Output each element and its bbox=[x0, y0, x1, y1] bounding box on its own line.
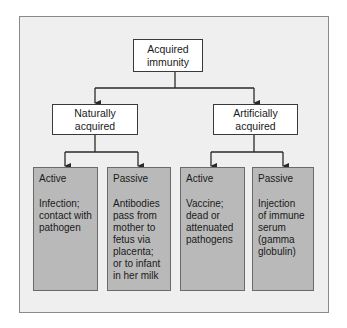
leaf-title: Passive bbox=[113, 173, 166, 185]
leaf-natural-active: Active Infection; contact with pathogen bbox=[33, 167, 98, 291]
root-node-label: Acquired immunity bbox=[147, 43, 189, 69]
leaf-description: Infection; contact with pathogen bbox=[39, 198, 93, 234]
leaf-title: Active bbox=[186, 173, 240, 185]
leaf-title: Passive bbox=[258, 173, 309, 185]
leaf-artificial-passive: Passive Injection of immune serum (gamma… bbox=[252, 167, 314, 291]
branch-node-label: Naturally acquired bbox=[74, 107, 115, 133]
branch-node-artificially-acquired: Artificially acquired bbox=[213, 104, 298, 135]
branch-node-label: Artificially acquired bbox=[233, 107, 277, 133]
root-node-acquired-immunity: Acquired immunity bbox=[133, 39, 203, 72]
branch-node-naturally-acquired: Naturally acquired bbox=[52, 104, 138, 135]
leaf-description: Vaccine; dead or attenuated pathogens bbox=[186, 198, 240, 246]
leaf-title: Active bbox=[39, 173, 93, 185]
leaf-description: Injection of immune serum (gamma globuli… bbox=[258, 198, 309, 258]
leaf-description: Antibodies pass from mother to fetus via… bbox=[113, 198, 166, 282]
leaf-artificial-active: Active Vaccine; dead or attenuated patho… bbox=[180, 167, 245, 291]
leaf-natural-passive: Passive Antibodies pass from mother to f… bbox=[107, 167, 171, 291]
